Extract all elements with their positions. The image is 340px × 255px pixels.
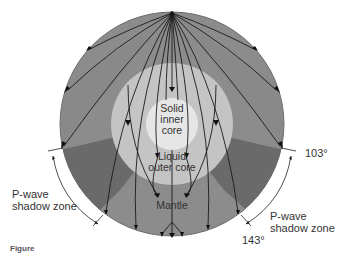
angle-143-label: 143° xyxy=(242,234,265,246)
outer-core-label: Liquid outer core xyxy=(135,151,209,173)
shadow-zone-right-line1: P-wave xyxy=(270,210,335,222)
earthquake-focus xyxy=(170,11,174,15)
outer-core-label-line2: outer core xyxy=(135,162,209,173)
shadow-zone-left-line1: P-wave xyxy=(12,188,77,200)
figure-caption: Figure xyxy=(10,243,34,255)
angle-103-label: 103° xyxy=(305,147,328,159)
inner-core-label-line3: core xyxy=(148,125,196,136)
shadow-zone-left-line2: shadow zone xyxy=(12,200,77,212)
inner-core-label: Solid inner core xyxy=(148,103,196,136)
mantle-label: Mantle xyxy=(147,200,197,211)
shadow-zone-left-label: P-wave shadow zone xyxy=(12,188,77,212)
shadow-zone-right-line2: shadow zone xyxy=(270,222,335,234)
shadow-zone-right-label: P-wave shadow zone xyxy=(270,210,335,234)
mantle-label-text: Mantle xyxy=(147,200,197,211)
